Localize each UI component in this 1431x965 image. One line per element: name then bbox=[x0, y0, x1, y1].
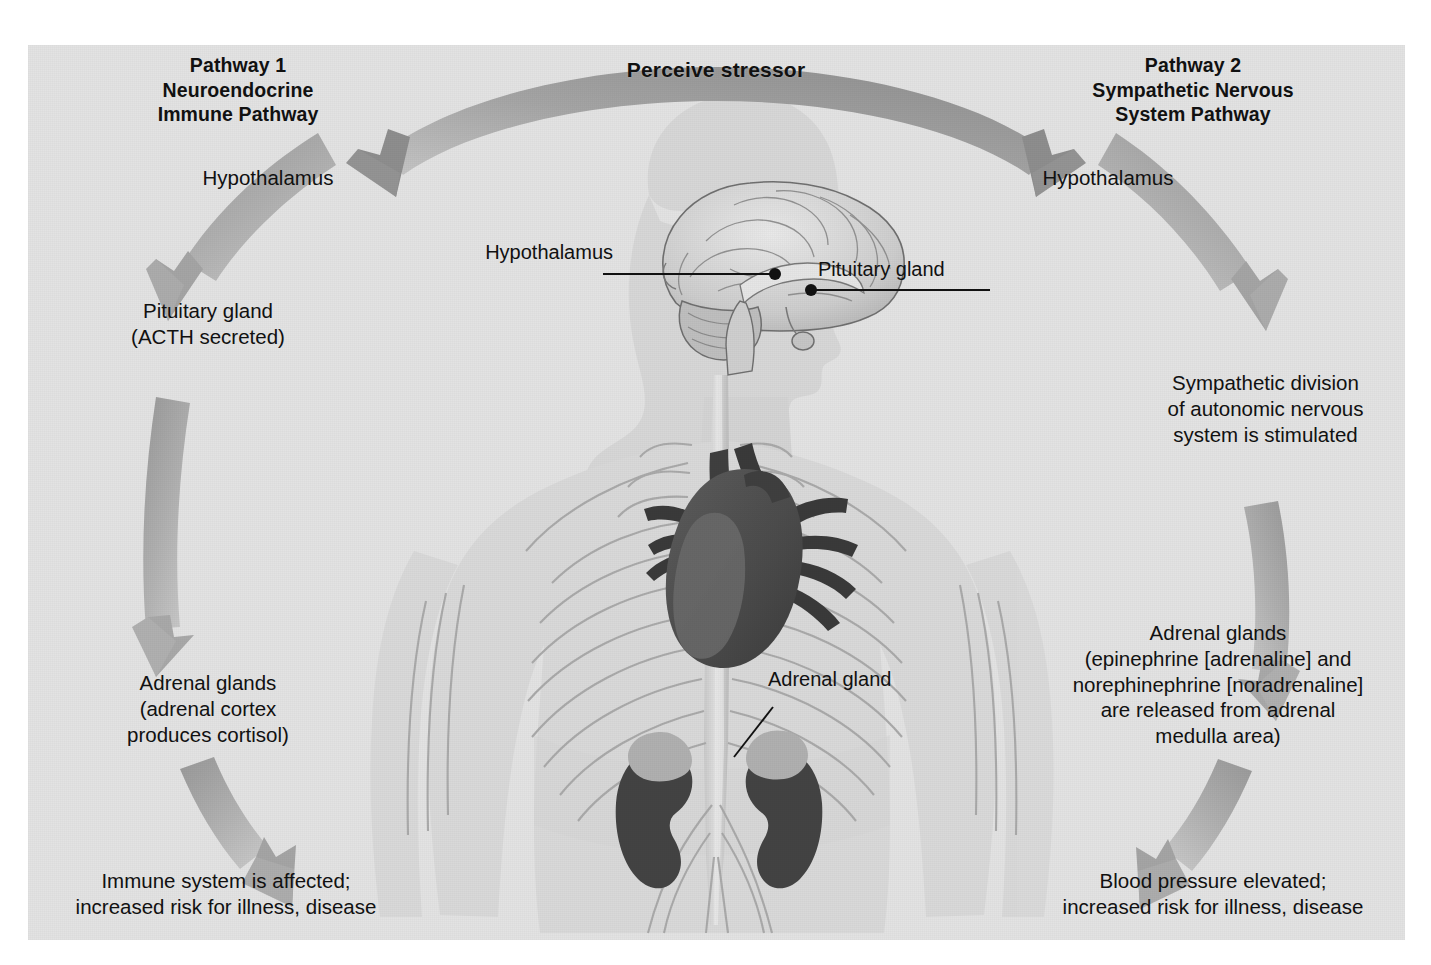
pathway-2-outcome: Blood pressure elevated; increased risk … bbox=[1023, 868, 1403, 920]
pathway-1-step-adrenal: Adrenal glands (adrenal cortex produces … bbox=[53, 670, 363, 747]
pathway-2-title: Pathway 2 Sympathetic Nervous System Pat… bbox=[1038, 53, 1348, 127]
pathway-1-title: Pathway 1 Neuroendocrine Immune Pathway bbox=[83, 53, 393, 127]
pathway-1-step-pituitary: Pituitary gland (ACTH secreted) bbox=[63, 298, 353, 350]
callout-hypothalamus: Hypothalamus bbox=[423, 240, 613, 265]
pathway-1-step-hypothalamus: Hypothalamus bbox=[143, 165, 393, 191]
pathway-1-outcome: Immune system is affected; increased ris… bbox=[36, 868, 416, 920]
pathway-2-step-hypothalamus: Hypothalamus bbox=[983, 165, 1233, 191]
callout-pituitary-gland: Pituitary gland bbox=[818, 257, 1048, 282]
perceive-stressor-label: Perceive stressor bbox=[516, 57, 916, 83]
pathway-1-arrows bbox=[132, 133, 336, 907]
diagram-panel: Pathway 1 Neuroendocrine Immune Pathway … bbox=[28, 45, 1405, 940]
callout-adrenal-gland: Adrenal gland bbox=[768, 667, 968, 692]
pathway-2-step-adrenal: Adrenal glands (epinephrine [adrenaline]… bbox=[1033, 620, 1403, 749]
pathway-2-arrows bbox=[1098, 133, 1300, 909]
pathway-2-step-sympathetic: Sympathetic division of autonomic nervou… bbox=[1118, 370, 1405, 447]
